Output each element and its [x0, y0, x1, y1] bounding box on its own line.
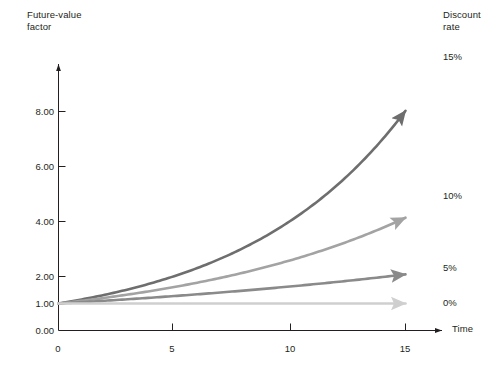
- plot-area: [0, 0, 501, 375]
- chart-container: Future-value factor Discount rate Time 8…: [0, 0, 501, 375]
- series-line-5-percent: [59, 274, 406, 303]
- y-axis-ticks: [59, 112, 66, 304]
- x-axis-ticks: [173, 324, 406, 331]
